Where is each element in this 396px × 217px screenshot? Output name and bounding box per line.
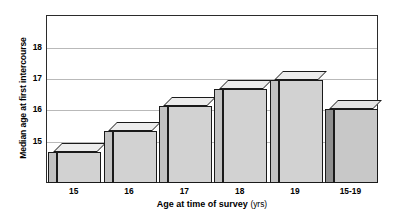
bar-19: [270, 71, 323, 184]
bar-top-face: [329, 100, 382, 109]
bar-17: [159, 97, 212, 183]
bar-side-face: [159, 106, 168, 183]
x-tick-label-18: 18: [212, 185, 267, 197]
bar-16: [104, 122, 157, 183]
x-tick-label-15-19: 15-19: [323, 185, 378, 197]
x-tick-label-19: 19: [267, 185, 322, 197]
bar-front-face: [279, 80, 323, 184]
bar-18: [214, 80, 267, 183]
bar-side-face: [104, 131, 113, 183]
bar-top-face: [53, 143, 106, 152]
y-tick-label-16: 16: [4, 105, 46, 113]
y-tick-label-17: 17: [4, 74, 46, 82]
y-axis-tick-labels: 15161718: [0, 15, 46, 183]
bar-side-face: [214, 89, 223, 183]
bar-top-face: [108, 122, 161, 131]
bar-side-face: [325, 109, 334, 183]
bar-side-face: [48, 152, 57, 183]
bar-front-face: [168, 106, 212, 183]
bar-top-face: [163, 97, 216, 106]
x-axis-title-text: Age at time of survey: [157, 199, 248, 209]
x-tick-label-17: 17: [157, 185, 212, 197]
bar-front-face: [334, 109, 378, 183]
x-tick-label-15: 15: [46, 185, 101, 197]
y-tick-label-18: 18: [4, 43, 46, 51]
y-tick-label-15: 15: [4, 137, 46, 145]
bar-15-19: [325, 100, 378, 183]
bar-chart: Median age at first intercourse 15161718…: [0, 0, 396, 217]
bars-layer: [46, 15, 378, 183]
x-axis-title: Age at time of survey (yrs): [46, 198, 378, 210]
bar-top-face: [274, 71, 327, 80]
bar-front-face: [113, 131, 157, 183]
x-axis-title-unit: (yrs): [250, 199, 267, 209]
bar-top-face: [219, 80, 272, 89]
bar-front-face: [57, 152, 101, 183]
bar-side-face: [270, 80, 279, 184]
x-axis-tick-labels: 151617181915-19: [46, 185, 378, 198]
x-tick-label-16: 16: [101, 185, 156, 197]
bar-front-face: [223, 89, 267, 183]
bar-15: [48, 143, 101, 183]
